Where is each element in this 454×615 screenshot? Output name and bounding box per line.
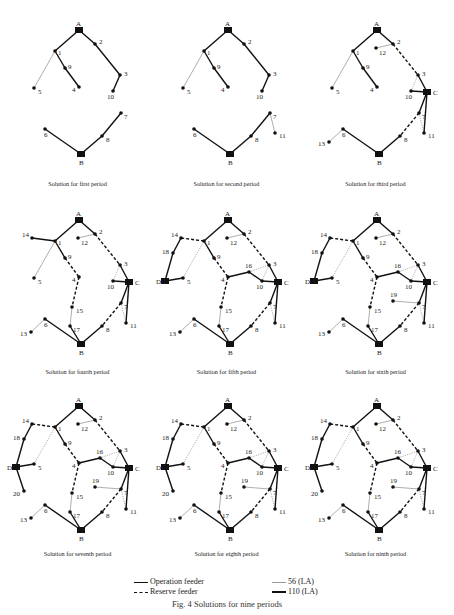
node-label: 14 bbox=[22, 231, 30, 239]
node-label: 15 bbox=[76, 307, 84, 315]
load-node-11-icon bbox=[273, 131, 277, 135]
node-label: 2 bbox=[99, 414, 103, 422]
thin-line-icon bbox=[272, 582, 286, 583]
operation-feeder-2-12 bbox=[227, 420, 244, 424]
operation-feeder-D-20 bbox=[314, 467, 322, 491]
load-node-15-icon bbox=[70, 491, 74, 495]
node-label: 6 bbox=[342, 507, 346, 515]
load-node-14-icon bbox=[328, 236, 332, 240]
load-node-20-icon bbox=[171, 489, 175, 493]
node-label: 10 bbox=[256, 469, 264, 477]
node-label: B bbox=[228, 349, 233, 357]
load-node-12-icon bbox=[374, 46, 378, 50]
node-label: 16 bbox=[96, 448, 104, 456]
operation-feeder-14-18 bbox=[173, 424, 181, 439]
substation-C-icon bbox=[274, 279, 282, 285]
load-node-4-icon bbox=[375, 461, 379, 465]
substation-B-icon bbox=[375, 151, 383, 157]
reserve-feeder-5-1 bbox=[34, 427, 55, 464]
node-label: A bbox=[76, 210, 81, 218]
load-node-9-icon bbox=[212, 256, 216, 260]
node-label: 9 bbox=[68, 63, 72, 71]
load-node-3-icon bbox=[267, 263, 271, 267]
reserve-feeder-3-10 bbox=[113, 265, 120, 281]
panel-caption: Solution for seventh period bbox=[2, 550, 153, 557]
dashed-line-icon bbox=[134, 592, 148, 593]
node-label: B bbox=[79, 349, 84, 357]
legend-label: Reserve feeder bbox=[150, 587, 198, 597]
load-node-15-icon bbox=[219, 305, 223, 309]
load-node-7-icon bbox=[119, 487, 123, 491]
operation-feeder-18-D bbox=[165, 253, 173, 281]
node-label: 16 bbox=[394, 448, 402, 456]
operation-feeder-2-12 bbox=[227, 234, 244, 238]
load-node-2-icon bbox=[93, 232, 97, 236]
operation-feeder-7-19 bbox=[393, 301, 419, 303]
load-node-13-icon bbox=[178, 330, 182, 334]
load-node-17-icon bbox=[68, 324, 72, 328]
node-label: 8 bbox=[255, 512, 259, 520]
operation-feeder-15-17 bbox=[219, 493, 221, 512]
load-node-16-icon bbox=[247, 270, 251, 274]
load-node-18-icon bbox=[320, 437, 324, 441]
node-label: 14 bbox=[320, 417, 328, 425]
node-label: A bbox=[374, 20, 379, 28]
operation-feeder-3-10 bbox=[113, 75, 120, 91]
operation-feeder-1-5 bbox=[34, 241, 55, 278]
network-diagram: AB1234567891011 bbox=[151, 2, 302, 174]
node-label: 12 bbox=[379, 239, 387, 247]
load-node-17-icon bbox=[366, 510, 370, 514]
reserve-feeder-7-8 bbox=[251, 303, 270, 326]
reserve-feeder-5-1 bbox=[332, 241, 353, 278]
reserve-feeder-16-3 bbox=[249, 265, 269, 272]
node-label: A bbox=[76, 396, 81, 404]
node-label: 6 bbox=[342, 321, 346, 329]
node-label: 18 bbox=[311, 248, 319, 256]
operation-feeder-A-1 bbox=[55, 30, 79, 51]
node-label: 10 bbox=[256, 283, 264, 291]
node-label: 15 bbox=[225, 307, 233, 315]
node-label: 12 bbox=[230, 239, 238, 247]
load-node-9-icon bbox=[63, 66, 67, 70]
operation-feeder-6-13 bbox=[180, 319, 194, 332]
node-label: 20 bbox=[311, 490, 319, 498]
operation-feeder-B-6 bbox=[343, 129, 379, 154]
load-node-5-icon bbox=[32, 86, 36, 90]
node-label: 7 bbox=[124, 113, 128, 121]
load-node-18-icon bbox=[171, 437, 175, 441]
load-node-8-icon bbox=[249, 324, 253, 328]
load-node-20-icon bbox=[22, 489, 26, 493]
node-label: 8 bbox=[404, 136, 408, 144]
panel-period-2: AB1234567891011 Solution for second peri… bbox=[151, 2, 302, 187]
node-label: 3 bbox=[422, 260, 426, 268]
reserve-feeder-7-8 bbox=[400, 113, 419, 136]
node-label: B bbox=[377, 535, 382, 543]
load-node-7-icon bbox=[268, 487, 272, 491]
node-label: 15 bbox=[76, 493, 84, 501]
load-node-17-icon bbox=[366, 324, 370, 328]
operation-feeder-14-18 bbox=[24, 424, 32, 439]
node-label: 13 bbox=[318, 516, 326, 524]
node-label: 15 bbox=[374, 493, 382, 501]
load-node-11-icon bbox=[422, 131, 426, 135]
operation-feeder-15-17 bbox=[219, 307, 221, 326]
load-node-7-icon bbox=[119, 301, 123, 305]
node-label: 8 bbox=[106, 512, 110, 520]
load-node-7-icon bbox=[119, 111, 123, 115]
node-label: 3 bbox=[273, 260, 277, 268]
load-node-5-icon bbox=[181, 86, 185, 90]
substation-D-icon bbox=[310, 278, 318, 284]
substation-B-icon bbox=[375, 527, 383, 533]
node-label: 2 bbox=[99, 228, 103, 236]
load-node-13-icon bbox=[178, 516, 182, 520]
operation-feeder-8-7 bbox=[102, 113, 121, 136]
node-label: 13 bbox=[318, 330, 326, 338]
load-node-15-icon bbox=[70, 305, 74, 309]
legend-label: Operation feeder bbox=[150, 577, 204, 587]
substation-D-icon bbox=[161, 278, 169, 284]
node-label: 3 bbox=[273, 70, 277, 78]
load-node-12-icon bbox=[76, 422, 80, 426]
node-label: 8 bbox=[404, 512, 408, 520]
load-node-18-icon bbox=[22, 437, 26, 441]
node-label: 1 bbox=[207, 425, 211, 433]
